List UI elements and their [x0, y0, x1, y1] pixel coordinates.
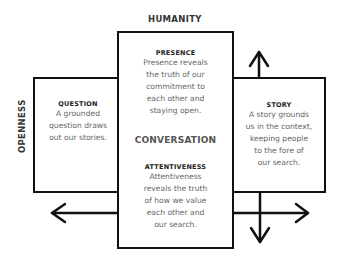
presence-text-line: each other and — [120, 93, 231, 105]
right-arrow-icon — [233, 204, 308, 222]
attentiveness-text-line: of how we value — [120, 195, 231, 207]
presence-text-line: commitment to — [120, 81, 231, 93]
attentiveness-text-line: our search. — [120, 219, 231, 231]
presence-text-line: staying open. — [120, 105, 231, 117]
attentiveness-text-line: reveals the truth — [120, 183, 231, 195]
question-title: QUESTION — [36, 100, 120, 108]
presence-text-line: Presence reveals — [120, 57, 231, 69]
story-title: STORY — [234, 101, 324, 109]
story-text-line: us in the context, — [234, 121, 324, 133]
conversation-title: CONVERSATION — [120, 135, 231, 145]
left-arrow-icon — [52, 204, 120, 222]
presence-title: PRESENCE — [120, 49, 231, 57]
question-text-line: question draws — [36, 120, 120, 132]
attentiveness-block: ATTENTIVENESS Attentiveness reveals the … — [120, 163, 231, 231]
down-arrow-icon — [251, 193, 269, 242]
story-text-line: to the fore of — [234, 145, 324, 157]
story-text-line: our search. — [234, 157, 324, 169]
presence-block: PRESENCE Presence reveals the truth of o… — [120, 49, 231, 117]
attentiveness-title: ATTENTIVENESS — [120, 163, 231, 171]
question-text-line: A grounded — [36, 108, 120, 120]
story-text-line: A story grounds — [234, 109, 324, 121]
question-text-line: out our stories. — [36, 132, 120, 144]
story-block: STORY A story grounds us in the context,… — [234, 101, 324, 169]
question-block: QUESTION A grounded question draws out o… — [36, 100, 120, 144]
story-text-line: keeping people — [234, 133, 324, 145]
attentiveness-text-line: Attentiveness — [120, 171, 231, 183]
presence-text-line: the truth of our — [120, 69, 231, 81]
up-arrow-icon — [250, 52, 268, 78]
attentiveness-text-line: each other and — [120, 207, 231, 219]
